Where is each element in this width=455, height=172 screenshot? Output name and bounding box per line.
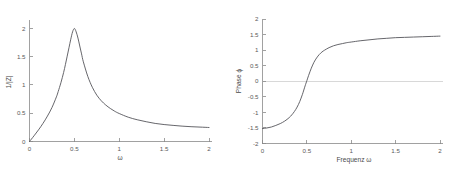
phase-x-tick-marks [263, 140, 441, 143]
figure-container: 00.511.52 00.511.52 ω 1/|Z| 00.511.52 -2… [0, 0, 455, 172]
amplitude-curve [30, 28, 210, 141]
amplitude-y-axis-title: 1/|Z| [5, 75, 13, 88]
y-tick-label-4: 2 [22, 25, 26, 32]
x-tick-label-1: 0.5 [303, 147, 312, 154]
phase-chart-panel: 00.511.52 -2-1.5-1-0.500.511.52 Frequenz… [228, 0, 455, 172]
amplitude-y-tick-labels: 00.511.52 [17, 25, 26, 145]
y-tick-label-5: 0.5 [250, 62, 259, 69]
amplitude-x-axis-title: ω [117, 154, 122, 161]
x-tick-label-3: 1.5 [391, 147, 400, 154]
amplitude-chart-panel: 00.511.52 00.511.52 ω 1/|Z| [0, 0, 228, 172]
y-tick-label-8: 2 [255, 15, 259, 22]
phase-y-tick-labels: -2-1.5-1-0.500.511.52 [248, 15, 259, 147]
y-tick-label-1: -1.5 [248, 124, 259, 131]
x-tick-label-3: 1.5 [160, 145, 169, 152]
amplitude-chart-svg: 00.511.52 00.511.52 ω 1/|Z| [0, 0, 228, 172]
x-tick-label-2: 1 [350, 147, 354, 154]
x-tick-label-2: 1 [118, 145, 122, 152]
y-tick-label-0: 0 [22, 138, 26, 145]
x-tick-label-1: 0.5 [70, 145, 79, 152]
phase-y-tick-marks [263, 19, 266, 144]
y-tick-label-3: 1.5 [17, 53, 26, 60]
y-tick-label-4: 0 [255, 77, 259, 84]
y-tick-label-1: 0.5 [17, 109, 26, 116]
amplitude-x-tick-marks [30, 138, 210, 141]
phase-curve [263, 36, 441, 128]
x-tick-label-4: 2 [207, 145, 211, 152]
phase-chart-svg: 00.511.52 -2-1.5-1-0.500.511.52 Frequenz… [228, 0, 455, 172]
x-tick-label-4: 2 [438, 147, 442, 154]
y-tick-label-2: 1 [22, 81, 26, 88]
y-tick-label-7: 1.5 [250, 31, 259, 38]
x-tick-label-0: 0 [28, 145, 32, 152]
y-tick-label-3: -0.5 [248, 93, 259, 100]
amplitude-y-tick-marks [30, 28, 33, 141]
amplitude-x-tick-labels: 00.511.52 [28, 145, 212, 152]
y-tick-label-0: -2 [253, 140, 259, 147]
phase-x-tick-labels: 00.511.52 [261, 147, 443, 154]
x-tick-label-0: 0 [261, 147, 265, 154]
y-tick-label-2: -1 [253, 109, 259, 116]
phase-x-axis-title: Frequenz ω [337, 156, 372, 164]
phase-y-axis-title: Phase ϕ [235, 69, 243, 94]
y-tick-label-6: 1 [255, 46, 259, 53]
